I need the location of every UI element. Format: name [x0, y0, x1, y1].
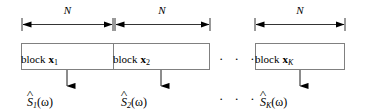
dimension-arrow-2 — [115, 18, 210, 31]
hat-accent-1: ^ — [27, 89, 33, 100]
hat-accent-2: ^ — [121, 89, 127, 100]
ellipsis-blocks: · · · — [219, 51, 259, 67]
dimension-label-1: N — [22, 5, 113, 16]
estimate-argument-2: (ω) — [131, 95, 147, 109]
block-text-1: block — [21, 53, 45, 65]
hat-accent-3: ^ — [260, 89, 266, 100]
estimate-label-2: ^S2(ω) — [121, 93, 201, 110]
estimate-argument-3: (ω) — [271, 95, 287, 109]
dimension-arrow-1 — [22, 18, 113, 31]
block-label-2: blockx2 — [113, 50, 210, 67]
block-label-1: blockx1 — [21, 50, 113, 67]
block-subscript-3: K — [288, 58, 293, 67]
ellipsis-estimates: · · · — [219, 91, 259, 107]
block-label-3: blockxK — [255, 50, 345, 67]
estimate-label-3: ^SK(ω) — [260, 93, 340, 110]
block-text-2: block — [113, 53, 137, 65]
block-subscript-1: 1 — [54, 58, 58, 67]
dimension-arrow-3 — [255, 18, 345, 31]
dimension-label-3: N — [255, 5, 345, 16]
block-text-3: block — [255, 53, 279, 65]
block-partition-diagram: N N N blockx1 blockx2 blockxK ^S1(ω) ^S2… — [0, 0, 368, 112]
estimate-label-1: ^S1(ω) — [27, 93, 107, 110]
block-subscript-2: 2 — [146, 58, 150, 67]
dimension-label-2: N — [114, 5, 210, 16]
estimate-argument-1: (ω) — [37, 95, 53, 109]
